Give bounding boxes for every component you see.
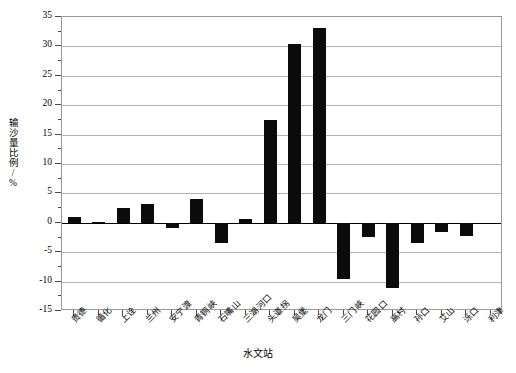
chart-container: 输沙量比例/% -15-10-505101520253035 贵德循化上诠兰州安… <box>0 0 516 373</box>
bar <box>386 223 399 288</box>
gridline <box>62 282 501 283</box>
gridline <box>62 164 501 165</box>
y-axis-label: 30 <box>43 41 53 51</box>
gridline <box>62 135 501 136</box>
bar <box>411 223 424 243</box>
bar <box>166 223 179 228</box>
bar <box>264 120 277 223</box>
y-axis-label: 15 <box>43 129 53 139</box>
x-axis: 贵德循化上诠兰州安宁渡青铜峡石嘴山三湖河口头道拐吴堡龙门三门峡花园口高村孙口艾山… <box>61 310 502 373</box>
bar <box>141 204 154 223</box>
x-axis-title: 水文站 <box>0 345 516 360</box>
plot-area <box>61 16 502 310</box>
y-axis-label: -5 <box>44 246 52 256</box>
bar <box>68 217 81 223</box>
y-axis-label: -10 <box>39 276 52 286</box>
gridline <box>62 252 501 253</box>
y-axis-label: 10 <box>43 158 53 168</box>
y-axis-label: -15 <box>39 305 52 315</box>
gridline <box>62 105 501 106</box>
gridline <box>62 193 501 194</box>
bar <box>92 222 105 223</box>
bar <box>239 219 252 223</box>
bar <box>435 223 448 232</box>
bar <box>362 223 375 237</box>
bar <box>215 223 228 243</box>
y-axis-label: 35 <box>43 11 53 21</box>
y-axis-label: 25 <box>43 70 53 80</box>
gridline <box>62 76 501 77</box>
bar <box>460 223 473 237</box>
y-axis-label: 20 <box>43 99 53 109</box>
bar <box>313 28 326 223</box>
y-axis-label: 0 <box>47 217 52 227</box>
gridline <box>62 46 501 47</box>
y-axis: -15-10-505101520253035 <box>0 0 61 373</box>
y-axis-label: 5 <box>47 188 52 198</box>
bar <box>288 44 301 223</box>
bar <box>117 208 130 223</box>
bar <box>337 223 350 279</box>
bar <box>190 199 203 223</box>
